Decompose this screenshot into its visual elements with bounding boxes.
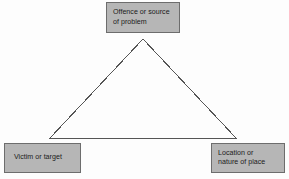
node-location-line-2: nature of place [218,158,279,167]
node-offence-or-source: Offence or source of problem [106,2,180,33]
node-victim-line-1: Victim or target [14,153,75,162]
node-offence-line-2: of problem [113,18,174,27]
node-location-or-nature-of-place: Location or nature of place [211,143,285,173]
problem-analysis-triangle-diagram: Offence or source of problem Victim or t… [0,0,289,179]
triangle-shape [50,39,236,138]
node-victim-or-target: Victim or target [4,143,81,173]
node-location-line-1: Location or [218,149,279,158]
node-offence-line-1: Offence or source [113,8,174,17]
